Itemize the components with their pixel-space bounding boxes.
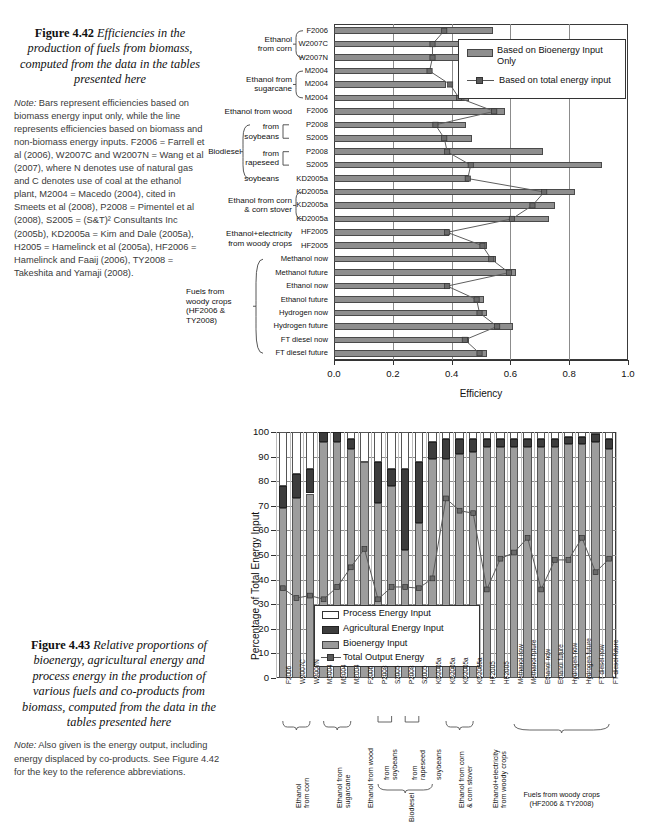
chart-energy-proportions: 0102030405060708090100 Percentage of Tot… [0, 0, 646, 825]
group-braces-energy [0, 0, 646, 825]
page-root: Figure 4.42 Efficiencies in the producti… [0, 0, 646, 825]
